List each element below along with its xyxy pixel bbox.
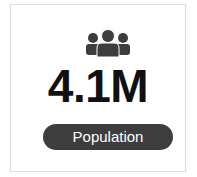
population-stat-card: 4.1M Population [10,4,186,172]
people-group-icon [84,29,132,57]
population-label-pill: Population [43,124,173,150]
population-value: 4.1M [11,63,185,109]
